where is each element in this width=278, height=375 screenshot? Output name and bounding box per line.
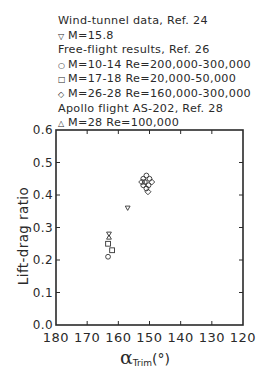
triangle-down-marker-icon — [125, 206, 130, 210]
x-tick-label: 170 — [74, 330, 100, 345]
y-tick-label: 0.1 — [33, 286, 53, 300]
circle-marker-icon — [147, 176, 152, 181]
x-axis-label: αTrim(°) — [120, 346, 170, 368]
circle-marker-icon — [106, 254, 111, 259]
y-tick-label: 0.6 — [33, 123, 53, 137]
scatter-chart: 1801701601501401301200.00.10.20.30.40.50… — [0, 0, 278, 375]
x-tick-label: 160 — [105, 330, 131, 345]
alpha-symbol: α — [120, 346, 133, 368]
y-tick-label: 0.3 — [33, 221, 53, 235]
y-tick-label: 0.4 — [33, 188, 53, 202]
x-tick-label: 150 — [136, 330, 162, 345]
diamond-marker-icon — [145, 189, 151, 195]
plot-frame — [56, 130, 243, 325]
y-axis-label: Lift-drag ratio — [15, 181, 31, 291]
x-tick-label: 140 — [168, 330, 194, 345]
x-axis-label-unit: (°) — [152, 351, 170, 367]
x-tick-label: 180 — [43, 330, 69, 345]
square-marker-icon — [106, 241, 111, 246]
y-tick-label: 0.5 — [33, 156, 53, 170]
y-tick-label: 0.2 — [33, 253, 53, 267]
x-tick-label: 120 — [230, 330, 256, 345]
x-tick-label: 130 — [199, 330, 225, 345]
y-tick-label: 0.0 — [33, 318, 53, 332]
square-marker-icon — [110, 248, 115, 253]
x-axis-label-subscript: Trim — [133, 358, 152, 368]
